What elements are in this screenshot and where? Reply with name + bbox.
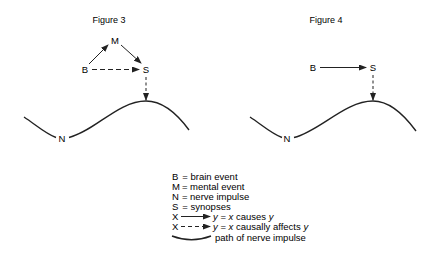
legend-item-affects: y = x causally affects y: [212, 221, 309, 232]
legend: B= brain event M= mental event N= nerve …: [172, 171, 309, 243]
legend-nerve-path-sample: [172, 236, 211, 240]
nerve-path-left: [250, 117, 282, 138]
figure-3-label-s: S: [143, 64, 149, 75]
diagram-canvas: Figure 3 M B S N Figure 4 B S N B= brain…: [0, 0, 437, 262]
legend-item-path: path of nerve impulse: [215, 232, 306, 243]
figure-3: Figure 3 M B S N: [24, 15, 189, 144]
figure-4-label-s: S: [370, 62, 376, 73]
figure-4-title: Figure 4: [309, 15, 342, 25]
legend-item-affects-symbol: X: [172, 221, 179, 232]
figure-3-label-b: B: [82, 64, 88, 75]
figure-4-label-n: N: [284, 133, 291, 144]
arrow-b-to-m: [89, 45, 108, 64]
figure-3-title: Figure 3: [92, 15, 125, 25]
nerve-path-right: [69, 101, 189, 138]
figure-4-label-b: B: [310, 62, 316, 73]
figure-3-label-n: N: [59, 133, 66, 144]
figure-3-label-m: M: [111, 35, 119, 46]
figure-4: Figure 4 B S N: [250, 15, 416, 144]
nerve-path-right: [294, 101, 416, 138]
arrow-m-to-s: [121, 45, 141, 63]
nerve-path-left: [24, 117, 56, 138]
